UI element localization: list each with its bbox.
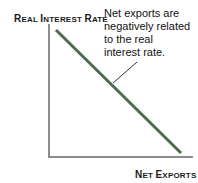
chart-annotation: Net exports are negatively related to th… bbox=[104, 7, 196, 59]
x-axis-label-part: XPORTS bbox=[162, 171, 196, 180]
annotation-line: negatively related bbox=[104, 20, 196, 33]
annotation-leader-line bbox=[113, 62, 137, 83]
x-axis-label: NET EXPORTS bbox=[135, 165, 196, 181]
net-exports-chart-figure: REAL INTEREST RATE NET EXPORTS Net expor… bbox=[0, 0, 198, 183]
y-axis-label-part: NTEREST bbox=[43, 15, 84, 24]
y-axis-label: REAL INTEREST RATE bbox=[14, 9, 108, 25]
y-axis-label-part: R bbox=[84, 13, 91, 24]
annotation-line: to the real bbox=[104, 33, 196, 46]
annotation-line: interest rate. bbox=[104, 46, 196, 59]
x-axis-label-part: ET bbox=[142, 171, 155, 180]
y-axis-label-part: EAL bbox=[21, 15, 40, 24]
annotation-line: Net exports are bbox=[104, 7, 196, 20]
